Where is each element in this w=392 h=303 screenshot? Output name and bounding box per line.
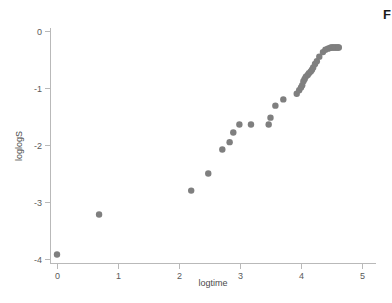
data-point — [336, 44, 342, 50]
data-point — [236, 121, 242, 127]
x-tick-label: 5 — [360, 271, 365, 281]
y-tick-label: -1 — [34, 84, 42, 94]
data-point — [265, 121, 271, 127]
y-axis-title: loglogS — [14, 131, 24, 161]
data-point — [188, 187, 194, 193]
data-point — [96, 211, 102, 217]
x-axis-title: logtime — [198, 278, 227, 288]
data-point — [280, 96, 286, 102]
data-point — [226, 139, 232, 145]
y-tick-label: -3 — [34, 198, 42, 208]
data-point — [248, 121, 254, 127]
data-point — [205, 170, 211, 176]
x-tick-label: 0 — [55, 271, 60, 281]
data-point — [219, 146, 225, 152]
data-point — [272, 102, 278, 108]
data-point — [54, 251, 60, 257]
data-point-group — [54, 44, 342, 257]
x-tick-label: 2 — [177, 271, 182, 281]
y-axis-ticks: 0-1-2-3-4 — [34, 27, 51, 265]
y-tick-label: 0 — [37, 27, 42, 37]
x-tick-label: 4 — [299, 271, 304, 281]
y-tick-label: -4 — [34, 255, 42, 265]
clipped-text-fragment: F — [383, 8, 392, 21]
scatter-plot: 0-1-2-3-4 012345 logtime loglogS — [0, 0, 392, 303]
data-point — [267, 114, 273, 120]
y-tick-label: -2 — [34, 141, 42, 151]
figure-canvas: 0-1-2-3-4 012345 logtime loglogS F — [0, 0, 392, 303]
x-tick-label: 3 — [238, 271, 243, 281]
x-tick-label: 1 — [116, 271, 121, 281]
data-point — [230, 129, 236, 135]
